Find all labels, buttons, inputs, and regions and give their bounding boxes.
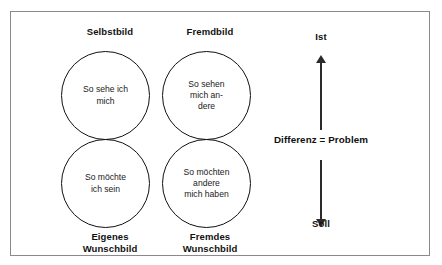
quadrant-label-eigenes-wunschbild: Eigenes Wunschbild <box>63 231 157 254</box>
quadrant-label-fremdbild: Fremdbild <box>163 26 257 38</box>
axis-line-lower <box>320 160 321 226</box>
circle-fremdbild: So sehen mich an- dere <box>162 51 251 140</box>
circle-selbstbild: So sehe ich mich <box>61 51 150 140</box>
diagram-canvas: Selbstbild Fremdbild Eigenes Wunschbild … <box>0 0 442 265</box>
axis-label-soll: Soll <box>261 218 381 229</box>
quadrant-label-selbstbild: Selbstbild <box>63 26 157 38</box>
circle-fremdes-wunschbild-text: So möchten andere mich haben <box>169 167 245 201</box>
circle-eigenes-wunschbild-text: So möchte ich sein <box>68 172 144 194</box>
circle-fremdbild-text: So sehen mich an- dere <box>169 79 245 113</box>
diagram-frame: Selbstbild Fremdbild Eigenes Wunschbild … <box>10 11 430 256</box>
axis-label-ist: Ist <box>261 31 381 42</box>
circle-eigenes-wunschbild: So möchte ich sein <box>61 139 150 228</box>
axis-line-upper <box>320 62 321 130</box>
difference-axis: Ist Differenz = Problem Soll <box>266 26 436 246</box>
quadrant-label-fremdes-wunschbild: Fremdes Wunschbild <box>163 231 257 254</box>
circle-fremdes-wunschbild: So möchten andere mich haben <box>162 139 251 228</box>
axis-center-label-differenz: Differenz = Problem <box>216 134 426 145</box>
circle-selbstbild-text: So sehe ich mich <box>68 84 144 106</box>
